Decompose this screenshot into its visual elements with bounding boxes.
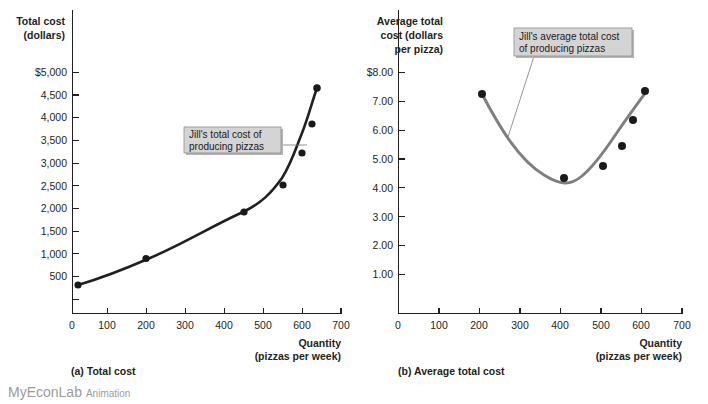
y-axis-title-line2: (dollars) bbox=[24, 29, 65, 41]
x-tick-label: 600 bbox=[632, 319, 650, 331]
x-tick-label: 700 bbox=[332, 319, 350, 331]
y-tick-label: 5.00 bbox=[373, 153, 394, 165]
y-tick-label: 2,000 bbox=[41, 202, 67, 214]
callout-total-cost: Jill's total cost of producing pizzas bbox=[184, 127, 283, 155]
datapoint bbox=[279, 181, 286, 188]
y-tick-label: 4,000 bbox=[41, 111, 67, 123]
total-cost-datapoints bbox=[74, 84, 320, 288]
myeconlab-brand[interactable]: MyEconLab Animation bbox=[8, 384, 130, 400]
datapoint bbox=[478, 90, 486, 98]
x-tick-label: 200 bbox=[470, 319, 488, 331]
average-total-cost-curve bbox=[482, 92, 646, 183]
datapoint bbox=[298, 149, 305, 156]
x-tick-label: 500 bbox=[254, 319, 272, 331]
datapoint bbox=[240, 208, 247, 215]
x-axis-title-line1: Quantity bbox=[639, 337, 682, 349]
panel-caption: (b) Average total cost bbox=[398, 365, 505, 377]
y-tick-label: 3,000 bbox=[41, 157, 67, 169]
x-tick-label: 500 bbox=[592, 319, 610, 331]
x-tick-label: 0 bbox=[69, 319, 75, 331]
x-tick-labels: 0 100 200 300 400 500 600 700 bbox=[69, 319, 350, 331]
datapoint bbox=[74, 281, 81, 288]
x-tick-label: 700 bbox=[673, 319, 691, 331]
x-tick-label: 200 bbox=[137, 319, 155, 331]
total-cost-chart: Total cost (dollars) $5,000 bbox=[0, 0, 354, 404]
x-tick-label: 300 bbox=[176, 319, 194, 331]
y-tick-label: 500 bbox=[49, 270, 67, 282]
y-tick-marks bbox=[73, 72, 79, 299]
y-axis-title-line1: Total cost bbox=[16, 15, 65, 27]
datapoint bbox=[618, 142, 626, 150]
x-tick-label: 100 bbox=[98, 319, 116, 331]
y-axis-title-line3: per pizza) bbox=[395, 43, 443, 55]
myeconlab-logo-text: MyEconLab bbox=[8, 384, 82, 400]
x-axis-title-line1: Quantity bbox=[298, 337, 341, 349]
callout-line2: producing pizzas bbox=[189, 141, 264, 152]
y-tick-label: 1,500 bbox=[41, 225, 67, 237]
x-axis-title-line2: (pizzas per week) bbox=[596, 350, 682, 362]
callout-line2: of producing pizzas bbox=[519, 43, 605, 54]
y-tick-labels: $8.00 7.00 6.00 5.00 4.00 3.00 2.00 1.00 bbox=[367, 66, 393, 280]
x-tick-labels: 0 100 200 300 400 500 600 700 bbox=[395, 319, 691, 331]
datapoint bbox=[308, 120, 315, 127]
datapoint bbox=[629, 116, 637, 124]
datapoint bbox=[599, 162, 607, 170]
y-tick-label: 2,500 bbox=[41, 180, 67, 192]
datapoint bbox=[560, 174, 568, 182]
x-tick-label: 600 bbox=[293, 319, 311, 331]
panel-caption: (a) Total cost bbox=[71, 365, 136, 377]
callout-leader-line bbox=[508, 50, 536, 137]
y-tick-label: 3.00 bbox=[373, 211, 394, 223]
y-tick-label: 6.00 bbox=[373, 124, 394, 136]
x-tick-label: 100 bbox=[430, 319, 448, 331]
x-tick-marks bbox=[108, 308, 342, 314]
callout-line1: Jill's total cost of bbox=[189, 129, 262, 140]
y-tick-label: 1.00 bbox=[373, 268, 394, 280]
y-tick-label: $8.00 bbox=[367, 66, 393, 78]
x-tick-label: 400 bbox=[215, 319, 233, 331]
panel-total-cost: Total cost (dollars) $5,000 bbox=[0, 0, 354, 404]
datapoint bbox=[313, 84, 321, 92]
x-tick-marks bbox=[439, 308, 682, 314]
y-tick-label: $5,000 bbox=[35, 66, 67, 78]
x-axis-title-line2: (pizzas per week) bbox=[255, 350, 341, 362]
y-tick-labels: $5,000 4,500 4,000 3,500 3,000 2,500 2,0… bbox=[35, 66, 67, 282]
callout-line1: Jill's average total cost bbox=[519, 31, 620, 42]
y-tick-label: 1,000 bbox=[41, 248, 67, 260]
datapoint bbox=[641, 87, 649, 95]
axes bbox=[73, 10, 342, 314]
y-tick-label: 7.00 bbox=[373, 95, 394, 107]
y-axis-title-line1: Average total bbox=[377, 15, 443, 27]
y-axis-title-line2: cost (dollars bbox=[381, 29, 444, 41]
animation-label: Animation bbox=[86, 388, 130, 399]
x-tick-label: 400 bbox=[551, 319, 569, 331]
y-tick-label: 3,500 bbox=[41, 134, 67, 146]
atc-datapoints bbox=[478, 87, 649, 182]
x-tick-label: 0 bbox=[395, 319, 401, 331]
y-tick-label: 4,500 bbox=[41, 89, 67, 101]
figure-root: Total cost (dollars) $5,000 bbox=[0, 0, 708, 404]
y-tick-marks bbox=[399, 72, 405, 274]
y-tick-label: 2.00 bbox=[373, 239, 394, 251]
panel-average-total-cost: Average total cost (dollars per pizza) $… bbox=[354, 0, 708, 404]
x-tick-label: 300 bbox=[511, 319, 529, 331]
callout-average-total-cost: Jill's average total cost of producing p… bbox=[514, 28, 634, 58]
datapoint bbox=[142, 255, 149, 262]
average-total-cost-chart: Average total cost (dollars per pizza) $… bbox=[354, 0, 708, 404]
y-tick-label: 4.00 bbox=[373, 182, 394, 194]
